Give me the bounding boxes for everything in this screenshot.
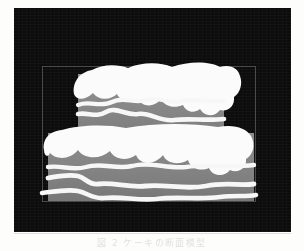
cake-illustration <box>14 8 291 232</box>
cake-lower-tier <box>42 124 256 201</box>
scanned-page: 図 2 ケーキの断面模型 <box>0 0 304 251</box>
figure-caption: 図 2 ケーキの断面模型 <box>0 234 304 251</box>
figure-caption-text: 図 2 ケーキの断面模型 <box>97 236 206 249</box>
figure-dark-panel <box>14 8 291 232</box>
